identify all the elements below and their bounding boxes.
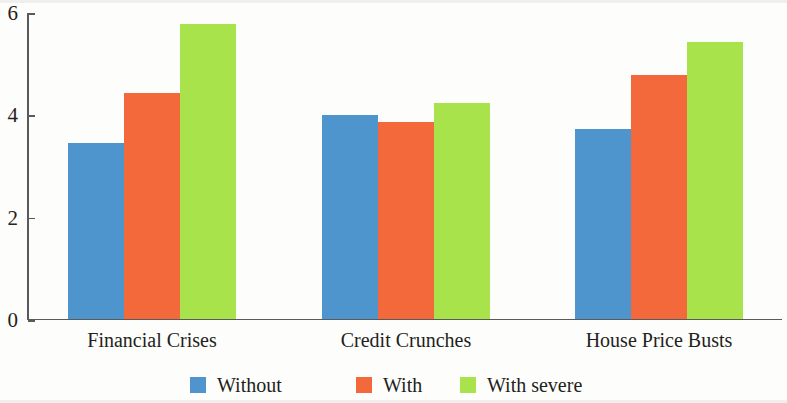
y-tick-label: 0	[8, 310, 19, 331]
page-edge-top	[0, 0, 787, 3]
legend-item-with[interactable]: With	[356, 372, 422, 398]
legend-label: With severe	[487, 375, 582, 395]
bar	[68, 143, 124, 319]
category-label-financial-crises: Financial Crises	[87, 327, 216, 353]
legend-label: With	[383, 375, 422, 395]
y-tick-mark	[28, 320, 35, 322]
legend-item-with-severe[interactable]: With severe	[460, 372, 582, 398]
legend-swatch-icon	[356, 377, 372, 393]
bar	[631, 75, 687, 319]
legend-item-without[interactable]: Without	[190, 372, 282, 398]
legend-swatch-icon	[460, 377, 476, 393]
bar-chart: 0246 Financial CrisesCredit CrunchesHous…	[0, 0, 787, 403]
y-tick-label: 6	[8, 3, 19, 24]
category-label-credit-crunches: Credit Crunches	[341, 327, 472, 353]
bar	[180, 24, 236, 318]
bar	[124, 93, 180, 318]
chart-legend: WithoutWithWith severe	[0, 372, 787, 400]
legend-swatch-icon	[190, 377, 206, 393]
bars-layer	[27, 13, 782, 320]
x-axis-category-labels: Financial CrisesCredit CrunchesHouse Pri…	[27, 327, 782, 357]
bar	[575, 129, 631, 319]
legend-label: Without	[217, 375, 282, 395]
y-tick-label: 2	[8, 207, 19, 228]
bar	[434, 103, 490, 318]
plot-area: 0246	[27, 13, 782, 320]
bar	[322, 115, 378, 319]
y-tick-label: 4	[8, 105, 19, 126]
bar	[378, 122, 434, 319]
category-label-house-price-busts: House Price Busts	[586, 327, 733, 353]
bar	[687, 42, 743, 318]
